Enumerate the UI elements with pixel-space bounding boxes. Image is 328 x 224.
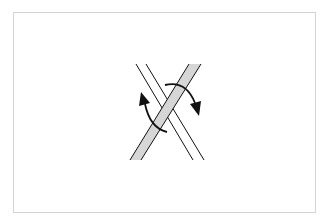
- crossing-diagram: [0, 0, 328, 224]
- strand-over: [130, 64, 201, 160]
